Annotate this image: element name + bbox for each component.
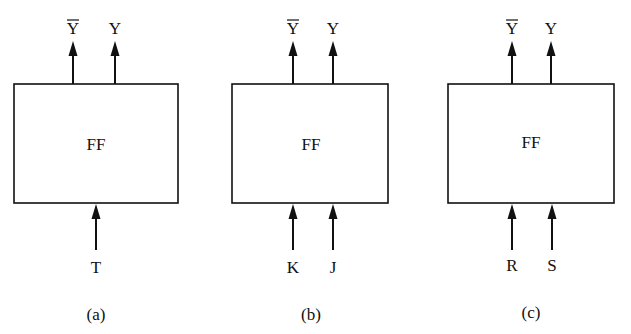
input-label-j: J <box>330 258 337 277</box>
block-label: FF <box>522 133 541 152</box>
block-label: FF <box>87 135 106 154</box>
output-label-y: Y <box>109 19 121 38</box>
output-label-ybar: Y <box>67 19 79 38</box>
input-label-r: R <box>506 256 518 275</box>
output-arrow-y-icon <box>329 41 338 84</box>
panel-c: FF Y Y R S (c) <box>448 19 614 322</box>
input-arrow-k-icon <box>289 204 298 250</box>
input-label-t: T <box>91 258 102 277</box>
input-arrow-s-icon <box>548 204 557 250</box>
output-label-y: Y <box>327 19 339 38</box>
panel-a: FF Y Y T (a) <box>14 19 178 324</box>
input-label-s: S <box>547 256 556 275</box>
output-arrow-y-icon <box>111 41 120 84</box>
output-label-ybar: Y <box>506 19 518 38</box>
caption-a: (a) <box>87 305 106 324</box>
input-arrow-j-icon <box>329 204 338 250</box>
input-arrow-t-icon <box>92 204 101 250</box>
flip-flop-diagram: FF Y Y T (a) FF Y <box>0 0 631 334</box>
block-label: FF <box>302 135 321 154</box>
output-arrow-y-icon <box>547 41 556 84</box>
output-arrow-ybar-icon <box>289 41 298 84</box>
input-arrow-r-icon <box>508 204 517 250</box>
input-label-k: K <box>287 258 300 277</box>
output-label-y: Y <box>545 19 557 38</box>
output-arrow-ybar-icon <box>508 41 517 84</box>
caption-c: (c) <box>522 303 541 322</box>
panel-b: FF Y Y K J (b) <box>232 19 388 324</box>
output-label-ybar: Y <box>287 19 299 38</box>
caption-b: (b) <box>301 305 321 324</box>
output-arrow-ybar-icon <box>69 41 78 84</box>
